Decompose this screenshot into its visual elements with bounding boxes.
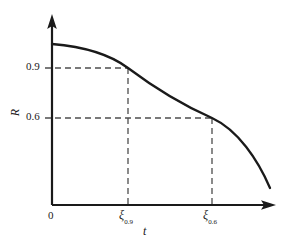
reliability-curve <box>52 44 270 188</box>
guide-lines-xi-09 <box>45 68 128 205</box>
x-axis <box>52 200 276 210</box>
plot-canvas <box>0 0 289 245</box>
x-tick-label-xi-0-6: ξ0.6 <box>203 208 217 224</box>
origin-label: 0 <box>48 209 54 221</box>
y-axis-title: R <box>8 109 23 116</box>
y-tick-label-0-9: 0.9 <box>26 60 40 72</box>
y-tick-label-0-6: 0.6 <box>26 110 40 122</box>
xi-subscript-0-9: 0.9 <box>124 218 133 226</box>
x-axis-title: t <box>143 224 146 239</box>
y-axis <box>47 14 57 205</box>
x-tick-label-xi-0-9: ξ0.9 <box>119 208 133 224</box>
xi-subscript-0-6: 0.6 <box>208 218 217 226</box>
reliability-function-figure: 0.9 0.6 R 0 ξ0.9 ξ0.6 t <box>0 0 289 245</box>
